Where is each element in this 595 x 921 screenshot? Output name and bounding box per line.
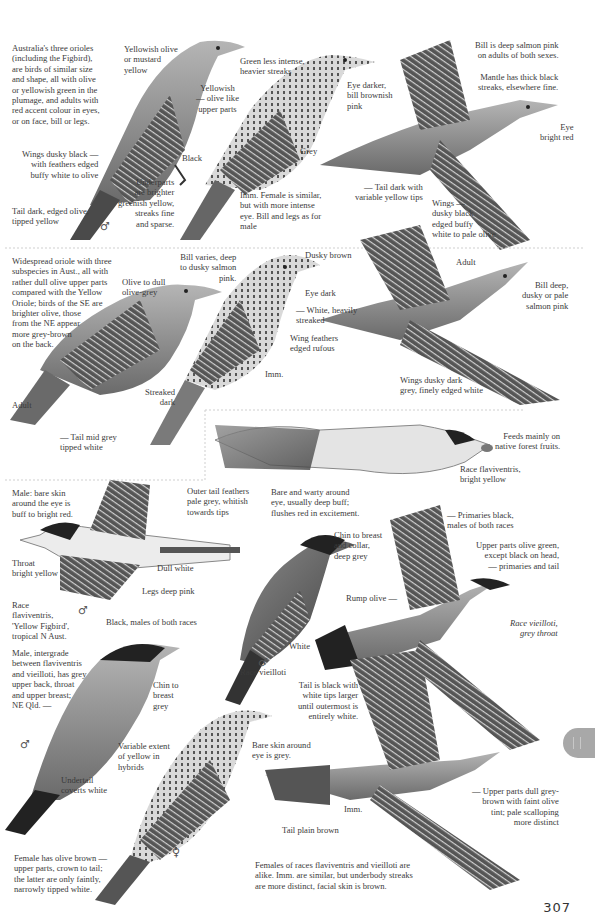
label-adult: Adult — [12, 400, 32, 410]
label-race-flaviventris-note: Race flaviventris, 'Yellow Figbird', tro… — [12, 600, 69, 642]
label-race-flaviventris-yellow: Race flaviventris, bright yellow — [460, 464, 521, 485]
label-crown-colour: Yellowish olive or mustard yellow — [124, 44, 178, 75]
label-females-races-note: Females of races flaviventris and vieill… — [255, 860, 413, 891]
label-white: White — [289, 641, 310, 651]
label-wings-dusky-dark: Wings dusky dark grey, finely edged whit… — [400, 375, 483, 396]
label-rump-olive: Rump olive — — [346, 593, 397, 603]
label-bill-salmon-pink: Bill is deep salmon pink on adults of bo… — [475, 40, 559, 61]
label-chin-breast-grey: Chin to breast grey — [153, 680, 179, 711]
label-upper-parts: Yellowish — olive like upper parts — [196, 83, 239, 114]
label-white-heavily-streaked: — White, heavily streaked — [296, 305, 357, 326]
label-wing-rufous: Wing feathers edged rufous — [290, 333, 338, 354]
label-variable-yellow: Variable extent of yellow in hybrids — [118, 741, 170, 772]
label-legs-black: Black — [182, 153, 202, 163]
label-male-bare-skin: Male: bare skin around the eye is buff t… — [12, 488, 73, 519]
figbird-eating-illustration — [215, 425, 493, 474]
label-underparts: Underparts are brighter greenish yellow,… — [118, 177, 174, 229]
label-race-vieilloti-grey-throat: Race vieilloti, grey throat — [510, 618, 558, 639]
label-imm: Imm. — [265, 369, 283, 379]
label-mantle-streaks: Mantle has thick black streaks, elsewher… — [478, 72, 558, 93]
label-throat-bright-yellow: Throat bright yellow — [12, 558, 58, 579]
female-symbol-icon: ♀ — [172, 846, 180, 859]
label-feeds-fruit: Feeds mainly on native forest fruits. — [495, 431, 560, 452]
label-dull-white: Dull white — [157, 563, 194, 573]
label-race-vieilloti: Race vieilloti — [240, 667, 286, 677]
label-dusky-brown: Dusky brown — [305, 250, 352, 260]
male-symbol-icon: ♂ — [78, 604, 88, 617]
label-bill-deep: Bill deep, dusky or pale salmon pink — [522, 280, 568, 311]
label-bare-warty: Bare and warty around eye, usually deep … — [271, 487, 359, 518]
label-imm-flight: Imm. — [344, 804, 362, 814]
label-bill-varies: Bill varies, deep to dusky salmon pink. — [180, 252, 236, 283]
male-symbol-icon: ♂ — [100, 220, 110, 233]
label-chin-breast-collar: Chin to breast and collar, deep grey — [334, 530, 382, 561]
label-black-males: Black, males of both races — [106, 617, 197, 627]
label-tail-yellow-tips: — Tail dark with variable yellow tips — [355, 182, 423, 203]
label-undertail-coverts: Undertail coverts white — [61, 775, 107, 796]
label-tail-dark: Tail dark, edged olive, tipped yellow — [12, 206, 89, 227]
tab-marker-icon — [573, 737, 581, 749]
yellow-oriole-intro-text: Australia's three orioles (including the… — [12, 43, 100, 126]
label-eye-bright-red: Eye bright red — [540, 122, 574, 143]
label-wings-buffy: Wings — dusky black edged buffy white to… — [432, 198, 496, 240]
label-tail-mid-grey: — Tail mid grey tipped white — [60, 432, 117, 453]
label-primaries-black: — Primaries black, males of both races — [447, 510, 514, 531]
section-thumb-tab — [563, 728, 595, 758]
label-female-olive-brown: Female has olive brown — upper parts, cr… — [14, 853, 107, 895]
label-imm-female-note: Imm. Female is similar, but with more in… — [240, 190, 322, 232]
label-tail-plain-brown: Tail plain brown — [282, 825, 339, 835]
label-flight-adult: Adult — [456, 257, 476, 267]
label-upper-olive-green: Upper parts olive green, except black on… — [476, 540, 559, 571]
label-eye-darker: Eye darker, bill brownish pink — [347, 80, 393, 111]
label-olive-to-dull: Olive to dull olive-grey — [122, 277, 165, 298]
label-bare-skin-grey: Bare skin around eye is grey. — [252, 740, 311, 761]
label-legs-deep-pink: Legs deep pink — [142, 586, 195, 596]
page-number: 307 — [543, 900, 571, 915]
label-legs-grey: Grey — [300, 146, 317, 156]
label-wings-dusky: Wings dusky black — with feathers edged … — [22, 149, 98, 180]
label-upper-grey-brown: — Upper parts dull grey- brown with fain… — [472, 786, 559, 828]
olive-backed-oriole-intro-text: Widespread oriole with three subspecies … — [12, 256, 112, 350]
label-eye-dark: Eye dark — [305, 288, 336, 298]
label-intergrade-male: Male, intergrade between flaviventris an… — [12, 648, 86, 710]
label-tail-black-white-tips: Tail is black with white tips larger unt… — [298, 680, 358, 722]
label-outer-tail-feathers: Outer tail feathers pale grey, whitish t… — [187, 486, 249, 517]
label-streaked-dark: Streaked dark — [145, 387, 175, 408]
label-green-less-intense: Green less intense, heavier streaks — [240, 56, 305, 77]
male-symbol-icon: ♂ — [20, 738, 30, 751]
